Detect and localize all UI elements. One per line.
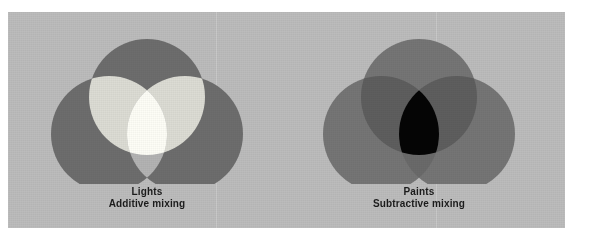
caption-subtractive: Paints Subtractive mixing bbox=[280, 186, 558, 210]
venn-diagram-subtractive bbox=[280, 12, 558, 184]
caption-additive-title: Lights bbox=[8, 186, 286, 198]
color-mixing-figure: Lights Additive mixing bbox=[0, 0, 592, 243]
caption-subtractive-title: Paints bbox=[280, 186, 558, 198]
figure-plate: Lights Additive mixing bbox=[8, 12, 565, 228]
caption-subtractive-subtitle: Subtractive mixing bbox=[280, 198, 558, 210]
caption-additive-subtitle: Additive mixing bbox=[8, 198, 286, 210]
diagram-additive-mixing: Lights Additive mixing bbox=[8, 12, 286, 228]
caption-additive: Lights Additive mixing bbox=[8, 186, 286, 210]
diagram-subtractive-mixing: Paints Subtractive mixing bbox=[280, 12, 558, 228]
venn-diagram-additive bbox=[8, 12, 286, 184]
